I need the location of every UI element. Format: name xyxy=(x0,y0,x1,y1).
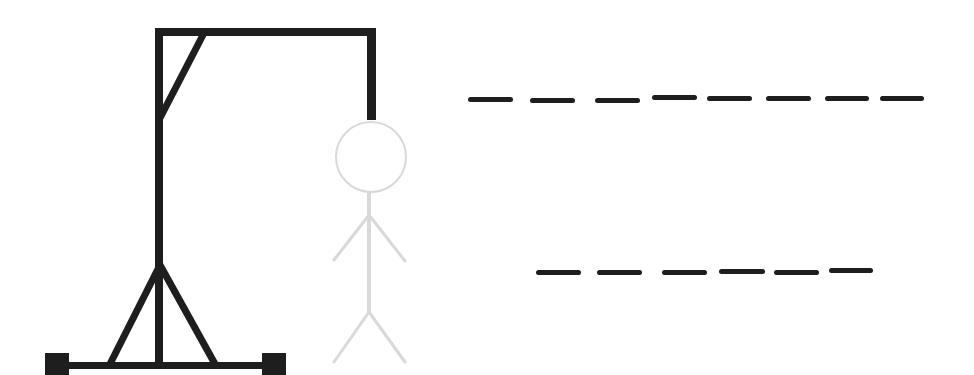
letter-blank xyxy=(468,97,513,102)
letter-blank xyxy=(825,96,869,101)
letter-blank xyxy=(652,95,697,100)
letter-blank xyxy=(774,270,819,275)
letter-blank xyxy=(595,98,640,103)
word-blanks xyxy=(0,0,974,375)
letter-blank xyxy=(597,270,642,275)
letter-blank xyxy=(707,96,752,101)
letter-blank xyxy=(719,269,765,274)
letter-blank xyxy=(880,96,924,101)
letter-blank xyxy=(766,96,811,101)
letter-blank xyxy=(530,98,575,103)
letter-blank xyxy=(829,268,873,273)
letter-blank xyxy=(536,270,581,275)
letter-blank xyxy=(662,270,707,275)
